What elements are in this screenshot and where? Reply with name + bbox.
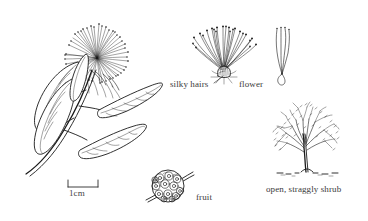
ground-line [277, 173, 338, 174]
label-fruit: fruit [196, 192, 212, 202]
flower-detail-drawing [192, 25, 257, 84]
stamen-detail-drawing [276, 27, 289, 85]
fruit-detail-drawing [146, 170, 194, 202]
label-silky-hairs: silky hairs [170, 79, 208, 89]
label-flower: flower [239, 79, 263, 89]
flower-hypanthium [211, 66, 237, 84]
leaf-middle-right [98, 83, 163, 118]
label-scale-bar: 1cm [69, 188, 85, 198]
scale-bar [68, 180, 98, 187]
leaf-upright-narrow [70, 54, 88, 101]
label-open-straggly-shrub: open, straggly shrub [266, 184, 341, 194]
habit-shrub-drawing [273, 102, 339, 176]
illustration-plate: .ink { stroke:#1a1a1a; fill:none; stroke… [0, 0, 368, 221]
flower-stamens [193, 27, 256, 69]
leaf-lower-right [79, 124, 147, 158]
flowering-branch-drawing [26, 23, 163, 176]
